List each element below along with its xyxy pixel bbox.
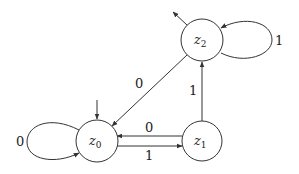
edge-label-z1-z0: 0 bbox=[145, 120, 153, 135]
edge-label-z0-z0: 0 bbox=[16, 134, 24, 149]
edge-label-z0-z1: 1 bbox=[145, 148, 153, 163]
edge-label-z1-z2: 1 bbox=[189, 83, 197, 98]
state-z1: z1 bbox=[182, 121, 222, 161]
edge-z2-z2 bbox=[221, 21, 272, 58]
edge-z2-z0 bbox=[112, 55, 187, 126]
state-z0: z0 bbox=[76, 120, 118, 162]
state-z2: z2 bbox=[181, 19, 223, 61]
final-state-arrow bbox=[173, 12, 187, 25]
edge-label-z2-z2: 1 bbox=[275, 33, 283, 48]
edge-z0-z0 bbox=[27, 123, 79, 160]
edge-label-z2-z0: 0 bbox=[135, 76, 143, 91]
state-diagram: 0 1 0 1 0 1 z0 z1 z2 bbox=[0, 0, 299, 174]
